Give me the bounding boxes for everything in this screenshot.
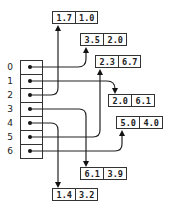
pair-second-value: 1.0 — [76, 12, 97, 23]
index-label-0: 0 — [5, 62, 15, 72]
pair-box-3.5-2.0: 3.5 2.0 — [80, 33, 127, 46]
arrow-5 — [30, 72, 100, 137]
pair-second-value: 3.9 — [104, 168, 126, 179]
pair-second-value: 4.0 — [140, 117, 162, 128]
index-label-6: 6 — [5, 146, 15, 156]
pair-first-value: 5.0 — [117, 117, 140, 128]
index-label-5: 5 — [5, 132, 15, 142]
pair-box-5.0-4.0: 5.0 4.0 — [116, 116, 163, 129]
arrow-4 — [30, 123, 58, 185]
index-label-4: 4 — [5, 118, 15, 128]
pair-box-1.7-1.0: 1.7 1.0 — [52, 11, 98, 24]
pair-first-value: 3.5 — [81, 34, 104, 45]
pair-first-value: 1.4 — [53, 189, 76, 200]
pair-first-value: 2.3 — [96, 56, 119, 67]
pair-first-value: 1.7 — [53, 12, 76, 23]
pair-box-1.4-3.2: 1.4 3.2 — [52, 188, 98, 201]
arrow-6 — [30, 133, 122, 151]
pair-box-6.1-3.9: 6.1 3.9 — [80, 167, 127, 180]
pair-first-value: 6.1 — [81, 168, 104, 179]
pair-second-value: 6.7 — [119, 56, 140, 67]
pair-first-value: 2.0 — [109, 95, 132, 106]
index-label-3: 3 — [5, 104, 15, 114]
pair-second-value: 6.1 — [132, 95, 154, 106]
arrow-2 — [30, 28, 58, 95]
index-label-1: 1 — [5, 76, 15, 86]
pair-box-2.3-6.7: 2.3 6.7 — [95, 55, 141, 68]
pair-box-2.0-6.1: 2.0 6.1 — [108, 94, 155, 107]
pair-second-value: 3.2 — [76, 189, 97, 200]
index-label-2: 2 — [5, 90, 15, 100]
pair-second-value: 2.0 — [104, 34, 126, 45]
